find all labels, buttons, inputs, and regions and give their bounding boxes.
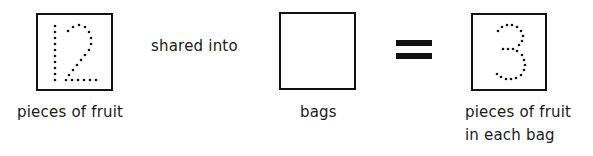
quotient-box xyxy=(471,13,547,91)
equals-bar-bottom xyxy=(396,53,432,59)
dividend-box xyxy=(36,13,113,91)
operator-text: shared into xyxy=(151,35,238,57)
dotted-number-3 xyxy=(473,15,545,89)
quotient-label-line2: in each bag xyxy=(465,124,555,146)
quotient-label-line1: pieces of fruit xyxy=(465,101,571,123)
equals-bar-top xyxy=(396,40,432,46)
dividend-label: pieces of fruit xyxy=(17,101,123,123)
dotted-number-12 xyxy=(38,15,111,89)
divisor-label: bags xyxy=(300,101,337,123)
divisor-answer-box[interactable] xyxy=(279,12,356,90)
